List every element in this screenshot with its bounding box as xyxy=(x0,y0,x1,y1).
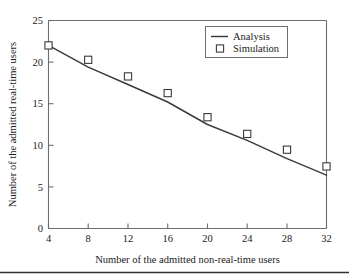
legend: Analysis Simulation xyxy=(206,27,288,58)
x-axis-ticks xyxy=(49,224,327,229)
x-tick-label-24: 24 xyxy=(242,233,253,244)
legend-label-simulation: Simulation xyxy=(233,43,280,54)
simulation-marker xyxy=(164,90,171,97)
y-tick-label-5: 5 xyxy=(38,182,43,193)
x-tick-label-4: 4 xyxy=(46,233,52,244)
x-tick-label-12: 12 xyxy=(123,233,134,244)
x-axis-title: Number of the admitted non-real-time use… xyxy=(95,254,280,265)
y-tick-label-10: 10 xyxy=(33,140,44,151)
analysis-line xyxy=(49,45,327,175)
legend-square-swatch-icon xyxy=(216,45,223,52)
y-tick-label-25: 25 xyxy=(33,15,44,26)
x-tick-label-20: 20 xyxy=(202,233,213,244)
y-tick-label-0: 0 xyxy=(38,223,43,234)
chart-canvas: 25 20 15 10 5 0 4 8 12 16 20 24 28 xyxy=(0,0,349,278)
series-analysis xyxy=(49,45,327,175)
simulation-marker xyxy=(283,146,290,153)
simulation-marker xyxy=(124,73,131,80)
figure-container: 25 20 15 10 5 0 4 8 12 16 20 24 28 xyxy=(0,0,349,278)
simulation-marker xyxy=(244,130,251,137)
x-tick-label-16: 16 xyxy=(162,233,173,244)
simulation-marker xyxy=(323,163,330,170)
series-simulation xyxy=(45,42,330,170)
simulation-marker xyxy=(204,114,211,121)
x-tick-label-28: 28 xyxy=(282,233,293,244)
x-tick-label-8: 8 xyxy=(86,233,91,244)
y-tick-label-20: 20 xyxy=(33,57,44,68)
legend-label-analysis: Analysis xyxy=(233,31,270,42)
simulation-marker xyxy=(85,56,92,63)
x-tick-label-32: 32 xyxy=(321,233,332,244)
y-axis-title: Number of the admitted real-time users xyxy=(7,42,18,207)
simulation-marker xyxy=(45,42,52,49)
y-tick-label-15: 15 xyxy=(33,98,44,109)
y-axis-ticks xyxy=(49,21,54,229)
y-axis-tick-labels: 25 20 15 10 5 0 xyxy=(33,15,44,234)
x-axis-tick-labels: 4 8 12 16 20 24 28 32 xyxy=(46,233,332,244)
